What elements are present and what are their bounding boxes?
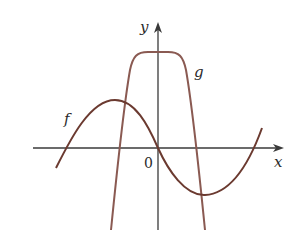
curve-g-label: g [194, 63, 204, 81]
origin-label: 0 [144, 155, 153, 171]
y-axis-label: y [139, 18, 149, 36]
graph-figure: y x 0 f g [0, 0, 300, 243]
curve-f-label: f [63, 110, 72, 128]
x-axis-label: x [274, 153, 283, 171]
